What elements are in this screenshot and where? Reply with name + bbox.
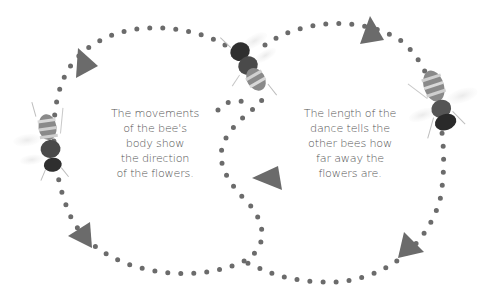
caption-line: of the flowers.	[105, 166, 205, 181]
caption-line: body show	[105, 136, 205, 151]
bee-left-icon	[8, 98, 72, 184]
arrow-top-right-icon	[360, 16, 384, 44]
waggle-dance-diagram	[0, 0, 504, 301]
bee-right-icon	[397, 58, 487, 142]
caption-line: The movements	[105, 106, 205, 121]
arrow-center-icon	[252, 166, 282, 190]
caption-line: flowers are.	[298, 166, 402, 181]
arrow-bottom-left-icon	[68, 222, 92, 248]
caption-line: far away the	[298, 151, 402, 166]
arrow-bottom-right-icon	[398, 232, 424, 258]
arrow-top-left-icon	[76, 48, 98, 78]
caption-line: The length of the	[298, 106, 402, 121]
caption-direction: The movements of the bee's body show the…	[105, 106, 205, 181]
caption-line: the direction	[105, 151, 205, 166]
bee-top-center-icon	[208, 17, 295, 113]
caption-line: dance tells the	[298, 121, 402, 136]
caption-distance: The length of the dance tells the other …	[298, 106, 402, 181]
caption-line: other bees how	[298, 136, 402, 151]
caption-line: of the bee's	[105, 121, 205, 136]
